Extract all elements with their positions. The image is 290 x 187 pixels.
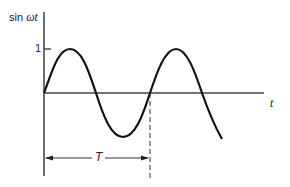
sine-curve — [44, 49, 222, 139]
y-axis-label: sin ωt — [9, 10, 38, 25]
arrowhead-left-icon — [45, 156, 53, 161]
y-axis-label-prefix: sin — [9, 11, 26, 23]
chart-canvas — [0, 0, 290, 187]
period-label: T — [92, 150, 105, 164]
arrowhead-right-icon — [141, 156, 149, 161]
sine-wave-figure: sin ωt 1 t T — [0, 0, 290, 187]
x-axis-label: t — [270, 96, 273, 111]
y-axis-label-var: ωt — [26, 10, 38, 24]
y-tick-label-1: 1 — [35, 42, 41, 54]
